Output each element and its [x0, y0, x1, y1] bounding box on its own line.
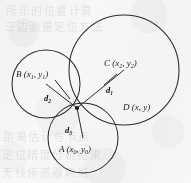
diagram-canvas: B (x1, y1) C (x2, y2) D (x, y) A (x0, y0… — [0, 0, 191, 183]
label-point-c: C (x2, y2) — [104, 58, 137, 69]
label-distance-d2: d2 — [44, 93, 51, 104]
radius-line-a-to-d — [77, 108, 83, 138]
leader-line-c-label — [104, 74, 117, 85]
label-point-d: D (x, y) — [122, 102, 150, 112]
figure-root: 所示的位置计算 三边测量定位方法 距离估计与节点 定位精度分析结果 无线传感器网… — [0, 0, 191, 183]
label-distance-d1: d1 — [106, 85, 113, 96]
intersection-node-d — [75, 106, 79, 110]
label-point-b: B (x1, y1) — [16, 69, 48, 80]
label-distance-d3: d3 — [65, 125, 72, 136]
radius-line-c-to-d — [77, 70, 124, 108]
label-point-a: A (x0, y0) — [58, 144, 91, 155]
